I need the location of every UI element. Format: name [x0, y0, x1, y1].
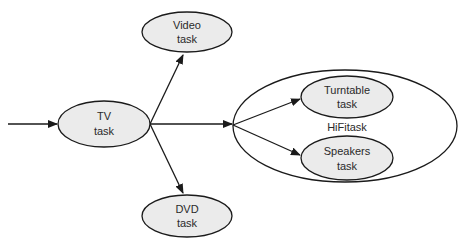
turntable-task-node[interactable]: Turntable task [301, 76, 393, 118]
task-diagram: HiFitask TV task Video task DVD task Tur… [0, 0, 466, 248]
tv-task-label-line1: TV [97, 110, 112, 122]
hifi-task-label: HiFitask [327, 121, 367, 133]
tv-task-node[interactable]: TV task [58, 101, 150, 147]
video-task-node[interactable]: Video task [142, 12, 232, 52]
dvd-task-label-line2: task [177, 217, 198, 229]
edge-tv-to-video [150, 55, 183, 124]
turntable-task-label-line1: Turntable [324, 84, 370, 96]
speakers-task-label-line1: Speakers [324, 145, 371, 157]
tv-task-label-line2: task [94, 125, 115, 137]
turntable-task-label-line2: task [337, 98, 358, 110]
video-task-label-line1: Video [173, 19, 201, 31]
video-task-label-line2: task [177, 33, 198, 45]
speakers-task-label-line2: task [337, 160, 358, 172]
dvd-task-label-line1: DVD [175, 203, 198, 215]
dvd-task-node[interactable]: DVD task [142, 195, 232, 237]
speakers-task-node[interactable]: Speakers task [301, 136, 393, 180]
edge-tv-to-dvd [150, 124, 183, 193]
